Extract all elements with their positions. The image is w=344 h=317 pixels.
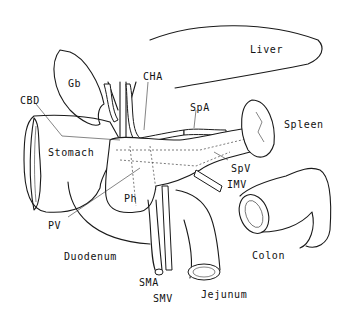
label-colon: Colon [252, 251, 285, 261]
liver-outline [150, 26, 322, 88]
label-gb: Gb [68, 79, 81, 89]
superior-mesenteric-vein [162, 186, 172, 270]
superior-mesenteric-artery [148, 200, 156, 272]
label-imv: IMV [227, 180, 247, 190]
label-smv: SMV [153, 294, 173, 304]
anatomy-diagram: Liver Gb CHA CBD SpA Spleen Stomach Ph S… [0, 0, 344, 317]
leader-cha [144, 82, 148, 130]
label-spv: SpV [231, 164, 251, 174]
label-duodenum: Duodenum [64, 252, 117, 262]
label-stomach: Stomach [48, 148, 94, 158]
common-hepatic-artery [126, 84, 184, 144]
label-cbd: CBD [20, 96, 40, 106]
label-cha: CHA [143, 72, 163, 82]
label-sma: SMA [139, 278, 159, 288]
inferior-mesenteric-vein [194, 170, 222, 192]
label-spleen: Spleen [284, 120, 324, 130]
leader-cbd [36, 104, 120, 140]
label-jejunum: Jejunum [201, 290, 247, 300]
label-pv: PV [48, 221, 61, 231]
label-ph: Ph [124, 194, 137, 204]
label-spa: SpA [190, 103, 210, 113]
label-liver: Liver [250, 45, 283, 55]
diagram-drawing [0, 0, 344, 317]
jejunum-outline [176, 190, 220, 270]
